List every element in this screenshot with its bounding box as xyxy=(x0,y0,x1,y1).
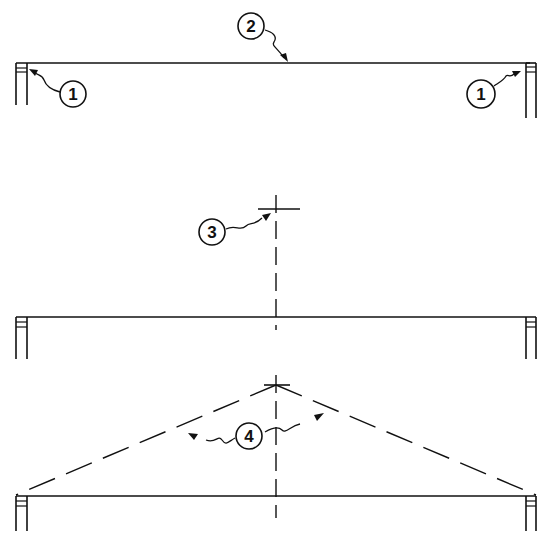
callout-2: 2 xyxy=(238,13,288,62)
diagram-canvas: 2 1 1 xyxy=(0,0,552,549)
left-wall xyxy=(16,63,27,105)
callout-3: 3 xyxy=(199,213,271,245)
left-wall xyxy=(16,317,27,359)
svg-text:1: 1 xyxy=(68,85,77,104)
svg-text:2: 2 xyxy=(246,17,255,36)
right-wall xyxy=(526,496,536,531)
right-wall xyxy=(526,63,536,118)
right-rafter-dashed xyxy=(276,385,536,495)
callout-1-right: 1 xyxy=(467,71,521,108)
left-wall xyxy=(16,496,27,531)
stage-1: 2 1 1 xyxy=(16,13,536,118)
svg-text:1: 1 xyxy=(476,85,485,104)
svg-text:4: 4 xyxy=(244,427,254,446)
stage-3: 4 xyxy=(16,375,536,531)
stage-2: 3 xyxy=(16,195,536,359)
callout-1-left: 1 xyxy=(29,69,86,107)
right-wall xyxy=(526,317,536,359)
callout-4: 4 xyxy=(188,413,324,449)
svg-text:3: 3 xyxy=(207,223,216,242)
